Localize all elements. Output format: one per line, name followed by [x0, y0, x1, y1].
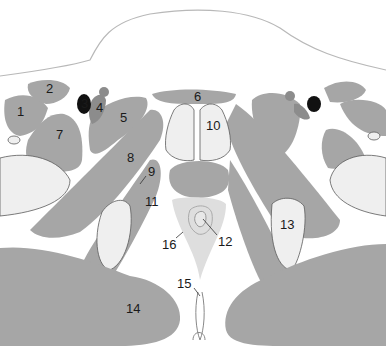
label-8: 8: [127, 150, 134, 165]
gluteus-maximus-14: [0, 247, 180, 346]
label-5: 5: [120, 110, 127, 125]
artery-right: [307, 96, 321, 112]
gluteus-maximus-right: [225, 244, 386, 346]
anal-canal-12: [195, 211, 206, 226]
label-2: 2: [46, 81, 53, 96]
muscle-right-lateral-2: [340, 100, 386, 136]
label-9: 9: [148, 164, 155, 179]
label-6: 6: [194, 89, 201, 104]
skin-outline: [0, 10, 386, 76]
label-7: 7: [56, 127, 63, 142]
label-4: 4: [96, 100, 103, 115]
label-3: 3: [81, 96, 88, 111]
leader-16: [176, 232, 183, 238]
label-16: 16: [162, 237, 176, 252]
pubis-left: [165, 104, 194, 161]
cross-section-diagram: 1 2 3 4 5 6 7 8 9 10 11 12 13 14 15 16: [0, 0, 386, 346]
label-14: 14: [126, 301, 140, 316]
small-vessel-left: [8, 136, 20, 144]
vessel-small-left: [99, 87, 109, 97]
label-13: 13: [280, 217, 294, 232]
label-12: 12: [218, 234, 232, 249]
bladder-region: [169, 161, 229, 198]
small-vessel-right: [368, 132, 380, 140]
muscle-right-lateral: [324, 81, 366, 102]
label-11: 11: [145, 194, 159, 209]
label-15: 15: [177, 276, 191, 291]
label-1: 1: [17, 104, 24, 119]
label-10: 10: [206, 118, 220, 133]
vessel-small-right: [285, 91, 295, 101]
